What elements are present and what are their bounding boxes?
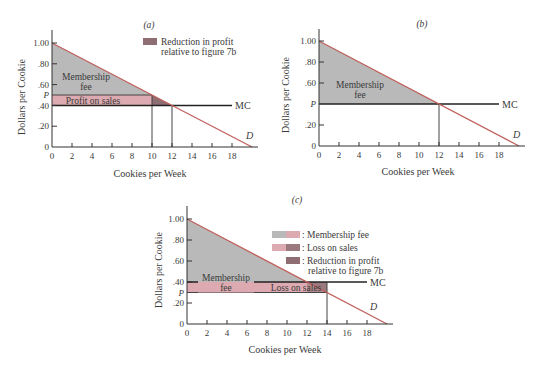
membership-fee-label: fee <box>354 90 366 100</box>
demand-label: D <box>512 129 521 140</box>
price-label: P <box>178 288 185 298</box>
x-tick-label: 6 <box>110 151 115 161</box>
mc-label: MC <box>502 99 518 110</box>
x-tick-label: 0 <box>185 328 190 338</box>
legend: Reduction in profit relative to figure 7… <box>143 37 236 57</box>
x-tick-label: 2 <box>337 150 342 160</box>
x-tick-label: 18 <box>228 151 238 161</box>
mc-label: MC <box>235 100 251 111</box>
chart-title: (b) <box>416 19 427 30</box>
x-tick-label: 0 <box>50 151 55 161</box>
x-tick-label: 16 <box>208 151 218 161</box>
x-tick-label: 8 <box>130 151 135 161</box>
legend-swatch-membership-gray <box>272 231 286 238</box>
x-axis-label: Cookies per Week <box>114 168 187 179</box>
chart-a: MC D 0 .20 .40 .60 .80 1.00 P <box>16 20 258 179</box>
profit-on-sales-label: Profit on sales <box>66 96 121 106</box>
membership-fee-label: Membership <box>336 80 384 90</box>
x-tick-label: 4 <box>225 328 230 338</box>
legend-swatch-loss-dark <box>286 244 300 251</box>
x-tick-label: 10 <box>283 328 293 338</box>
x-axis-label: Cookies per Week <box>382 166 455 177</box>
y-axis-label: Dollars per Cookie <box>153 231 164 308</box>
legend-label: relative to figure 7b <box>308 266 383 276</box>
x-tick-label: 10 <box>148 151 158 161</box>
y-tick-label: .40 <box>173 277 185 287</box>
legend-swatch-reduction <box>286 257 300 264</box>
x-tick-label: 4 <box>90 151 95 161</box>
x-tick-label: 8 <box>397 150 402 160</box>
x-tick-label: 16 <box>475 150 485 160</box>
x-tick-label: 16 <box>343 328 353 338</box>
membership-fee-label: fee <box>80 82 92 92</box>
figure-canvas: MC D 0 .20 .40 .60 .80 1.00 P <box>0 0 546 371</box>
x-tick-label: 6 <box>377 150 382 160</box>
loss-on-sales-label: Loss on sales <box>271 283 322 293</box>
y-tick-label: .60 <box>173 256 185 266</box>
legend-label: : Loss on sales <box>302 243 358 253</box>
y-tick-label: 1.00 <box>33 38 49 48</box>
x-tick-label: 12 <box>168 151 177 161</box>
legend-label: : Membership fee <box>302 230 369 240</box>
x-tick-label: 10 <box>415 150 425 160</box>
x-tick-label: 12 <box>435 150 444 160</box>
price-label: P <box>310 99 317 109</box>
x-tick-label: 4 <box>357 150 362 160</box>
legend: : Membership fee : Loss on sales : Reduc… <box>272 230 383 276</box>
chart-title: (c) <box>292 195 303 206</box>
y-tick-label: .80 <box>38 59 50 69</box>
mc-label: MC <box>370 277 386 288</box>
x-tick-label: 14 <box>455 150 465 160</box>
price-label: P <box>43 90 50 100</box>
x-tick-label: 2 <box>205 328 210 338</box>
demand-label: D <box>369 301 378 312</box>
y-tick-label: 1.00 <box>300 36 316 46</box>
y-tick-label: 0 <box>312 141 317 151</box>
y-tick-label: .80 <box>305 57 317 67</box>
y-tick-label: .60 <box>38 80 50 90</box>
legend-swatch-loss-pink <box>272 244 286 251</box>
x-tick-label: 18 <box>363 328 373 338</box>
demand-label: D <box>245 130 254 141</box>
legend-swatch-membership-pink <box>286 231 300 238</box>
x-tick-label: 14 <box>323 328 333 338</box>
membership-fee-label: Membership <box>62 72 110 82</box>
x-tick-label: 8 <box>265 328 270 338</box>
y-tick-label: .80 <box>173 235 185 245</box>
y-tick-label: .20 <box>305 120 317 130</box>
legend-label: Reduction in profit <box>161 37 234 47</box>
y-tick-label: 0 <box>45 142 50 152</box>
chart-c: MC D 0 .20 .40 .60 .80 1.00 P 0 2 <box>153 195 393 355</box>
chart-title: (a) <box>143 20 154 31</box>
chart-b: MC D 0 .20 P .60 .80 1.00 0 2 4 6 <box>280 19 525 177</box>
x-axis-label: Cookies per Week <box>249 344 322 355</box>
legend-swatch-reduction <box>143 38 157 45</box>
x-tick-label: 2 <box>70 151 75 161</box>
x-tick-label: 6 <box>245 328 250 338</box>
x-tick-label: 14 <box>188 151 198 161</box>
y-tick-label: .60 <box>305 78 317 88</box>
x-tick-label: 18 <box>495 150 505 160</box>
legend-label: : Reduction in profit <box>302 256 380 266</box>
y-tick-label: 1.00 <box>168 214 184 224</box>
x-tick-label: 0 <box>317 150 322 160</box>
y-tick-label: .20 <box>38 121 50 131</box>
membership-fee-label: fee <box>220 283 232 293</box>
legend-label: relative to figure 7b <box>161 47 236 57</box>
y-axis-label: Dollars per Cookie <box>16 58 27 135</box>
x-tick-label: 12 <box>303 328 312 338</box>
y-tick-label: .20 <box>173 298 185 308</box>
y-axis-label: Dollars per Cookie <box>280 56 291 133</box>
membership-fee-label: Membership <box>202 273 250 283</box>
y-tick-label: 0 <box>180 319 185 329</box>
y-tick-label: .40 <box>38 101 50 111</box>
